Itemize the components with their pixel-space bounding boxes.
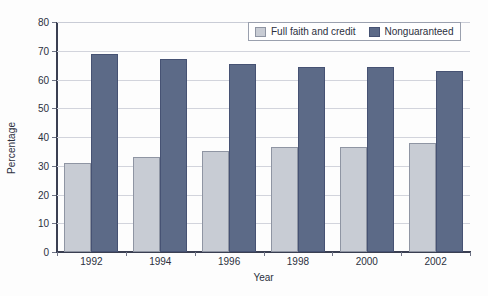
y-axis-tick-label: 0 [25, 247, 49, 258]
bar [298, 67, 325, 252]
x-axis-tick-label: 1998 [276, 256, 320, 267]
bar [202, 151, 229, 252]
y-axis-tick-label: 30 [25, 160, 49, 171]
y-axis-tick-mark [52, 80, 56, 81]
x-axis-title: Year [57, 272, 470, 283]
x-axis-tick-mark [126, 252, 127, 256]
legend-label: Nonguaranteed [385, 26, 454, 37]
x-axis-tick-label: 1994 [138, 256, 182, 267]
legend-label: Full faith and credit [271, 26, 356, 37]
legend-entry-nonguaranteed[interactable]: Nonguaranteed [369, 26, 454, 37]
y-axis-tick-mark [52, 22, 56, 23]
y-axis-tick-mark [52, 108, 56, 109]
bar [160, 59, 187, 252]
y-axis-tick-mark [52, 137, 56, 138]
bar [229, 64, 256, 252]
bar [340, 147, 367, 252]
y-axis-tick-label: 70 [25, 45, 49, 56]
bar [409, 143, 436, 252]
y-axis-tick-label: 60 [25, 74, 49, 85]
x-axis-tick-mark [264, 252, 265, 256]
bar [133, 157, 160, 252]
bar [64, 163, 91, 252]
y-axis-tick-label: 20 [25, 189, 49, 200]
x-axis-tick-mark [401, 252, 402, 256]
x-axis-tick-label: 2000 [345, 256, 389, 267]
y-axis-tick-label: 10 [25, 218, 49, 229]
x-axis-tick-mark [332, 252, 333, 256]
gridline [57, 51, 470, 52]
gridline [57, 137, 470, 138]
x-axis-tick-mark [57, 252, 58, 256]
y-axis-title: Percentage [0, 0, 22, 296]
x-axis-tick-label: 2002 [414, 256, 458, 267]
legend-swatch-light-icon [255, 27, 266, 37]
bar [436, 71, 463, 252]
x-axis-tick-label: 1992 [69, 256, 113, 267]
bar-chart: Percentage 01020304050607080 19921994199… [0, 0, 488, 296]
y-axis-tick-mark [52, 223, 56, 224]
y-axis-tick-label: 80 [25, 17, 49, 28]
y-axis-tick-mark [52, 51, 56, 52]
legend-entry-full-faith-and-credit[interactable]: Full faith and credit [255, 26, 356, 37]
y-axis-tick-label: 50 [25, 103, 49, 114]
y-axis-tick-mark [52, 195, 56, 196]
chart-legend: Full faith and credit Nonguaranteed [248, 22, 461, 41]
y-axis-tick-mark [52, 252, 56, 253]
bar [91, 54, 118, 252]
bar [367, 67, 394, 252]
gridline [57, 80, 470, 81]
y-axis-tick-mark [52, 166, 56, 167]
bar [271, 147, 298, 252]
gridline [57, 108, 470, 109]
plot-area [57, 22, 470, 252]
x-axis-tick-mark [470, 252, 471, 256]
legend-swatch-dark-icon [369, 27, 380, 37]
x-axis-tick-label: 1996 [207, 256, 251, 267]
y-axis-tick-label: 40 [25, 132, 49, 143]
x-axis-tick-mark [195, 252, 196, 256]
